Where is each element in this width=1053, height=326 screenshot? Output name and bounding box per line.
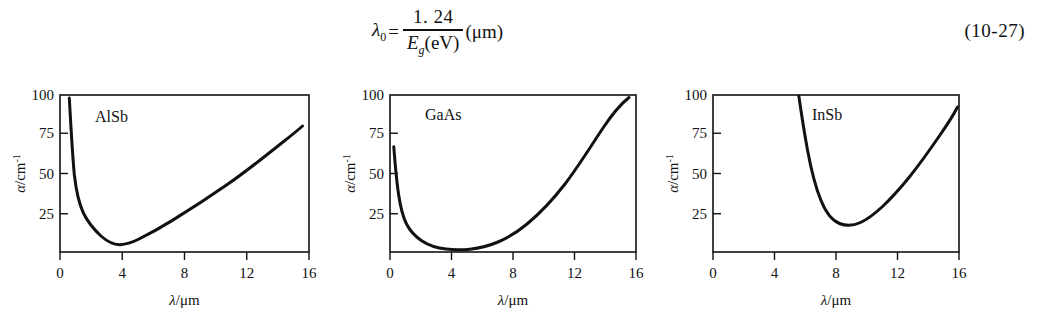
x-tick-label-12: 12 [239, 265, 254, 281]
charts-row: 100 75 50 25 0 4 8 12 16 λ/μm α/cm-1 AlS… [0, 72, 1053, 326]
energy-gap-symbol: E [407, 32, 419, 53]
y-tick-label-25: 25 [692, 206, 707, 222]
fraction-numerator: 1. 24 [409, 6, 458, 29]
x-axis-unit: /μm [827, 292, 851, 308]
y-tick-label-100: 100 [362, 87, 385, 103]
x-axis-unit: /μm [504, 292, 528, 308]
equation-result-unit: (μm) [465, 21, 503, 43]
x-tick-label-8: 8 [509, 265, 517, 281]
y-axis-exponent: -1 [664, 154, 675, 162]
chart-gaas-svg: 100 75 50 25 0 4 8 12 16 λ/μm α/cm-1 GaA… [330, 72, 660, 326]
chart-insb: 100 75 50 25 0 4 8 12 16 λ/μm α/cm-1 InS… [660, 72, 990, 326]
x-axis-title: λ/μm [168, 292, 200, 308]
x-axis-title: λ/μm [820, 292, 852, 308]
y-tick-label-75: 75 [39, 125, 54, 141]
series-label-gaas: GaAs [425, 106, 461, 123]
chart-alsb-svg: 100 75 50 25 0 4 8 12 16 λ/μm α/cm-1 AlS… [0, 72, 330, 326]
y-tick-label-50: 50 [692, 166, 707, 182]
y-axis-unit: /cm [342, 162, 358, 185]
x-tick-label-16: 16 [629, 265, 645, 281]
x-tick-label-0: 0 [709, 265, 717, 281]
fraction: 1. 24 Eg(eV) [403, 6, 463, 57]
y-tick-label-75: 75 [692, 125, 707, 141]
chart-insb-svg: 100 75 50 25 0 4 8 12 16 λ/μm α/cm-1 InS… [660, 72, 990, 326]
x-tick-label-8: 8 [181, 265, 189, 281]
y-axis-unit: /cm [665, 162, 681, 185]
x-tick-label-4: 4 [448, 265, 456, 281]
equation-number: (10-27) [965, 20, 1025, 42]
y-tick-label-50: 50 [39, 166, 54, 182]
x-tick-label-16: 16 [302, 265, 318, 281]
y-tick-label-50: 50 [369, 166, 384, 182]
x-tick-label-0: 0 [386, 265, 394, 281]
y-axis-title: α/cm-1 [11, 154, 28, 193]
chart-gaas: 100 75 50 25 0 4 8 12 16 λ/μm α/cm-1 GaA… [330, 72, 660, 326]
x-axis-title: λ/μm [497, 292, 529, 308]
equation-display: λ0 = 1. 24 Eg(eV) (μm) [372, 6, 503, 57]
equation-lhs: λ0 [372, 19, 386, 45]
x-tick-label-12: 12 [567, 265, 582, 281]
x-axis-unit: /μm [176, 292, 200, 308]
x-tick-label-16: 16 [952, 265, 968, 281]
lambda-symbol: λ [372, 19, 380, 40]
y-tick-label-25: 25 [39, 206, 54, 222]
equation-row: λ0 = 1. 24 Eg(eV) (μm) (10-27) [0, 0, 1053, 72]
y-tick-label-100: 100 [32, 87, 55, 103]
x-tick-label-4: 4 [771, 265, 779, 281]
fraction-denominator: Eg(eV) [403, 31, 463, 58]
y-axis-unit: /cm [12, 162, 28, 185]
x-tick-label-0: 0 [56, 265, 64, 281]
chart-alsb: 100 75 50 25 0 4 8 12 16 λ/μm α/cm-1 AlS… [0, 72, 330, 326]
equals-sign: = [388, 21, 399, 43]
x-tick-label-8: 8 [832, 265, 840, 281]
energy-gap-unit: (eV) [425, 32, 460, 53]
y-axis-exponent: -1 [11, 154, 22, 162]
series-label-alsb: AlSb [95, 108, 128, 125]
y-axis-title: α/cm-1 [341, 154, 358, 193]
y-tick-label-75: 75 [369, 125, 384, 141]
lambda-subscript: 0 [380, 30, 386, 44]
x-tick-label-4: 4 [119, 265, 127, 281]
series-label-insb: InSb [812, 106, 842, 123]
y-tick-label-25: 25 [369, 206, 384, 222]
y-axis-title: α/cm-1 [664, 154, 681, 193]
x-tick-label-12: 12 [890, 265, 905, 281]
y-axis-exponent: -1 [341, 154, 352, 162]
y-tick-label-100: 100 [685, 87, 708, 103]
